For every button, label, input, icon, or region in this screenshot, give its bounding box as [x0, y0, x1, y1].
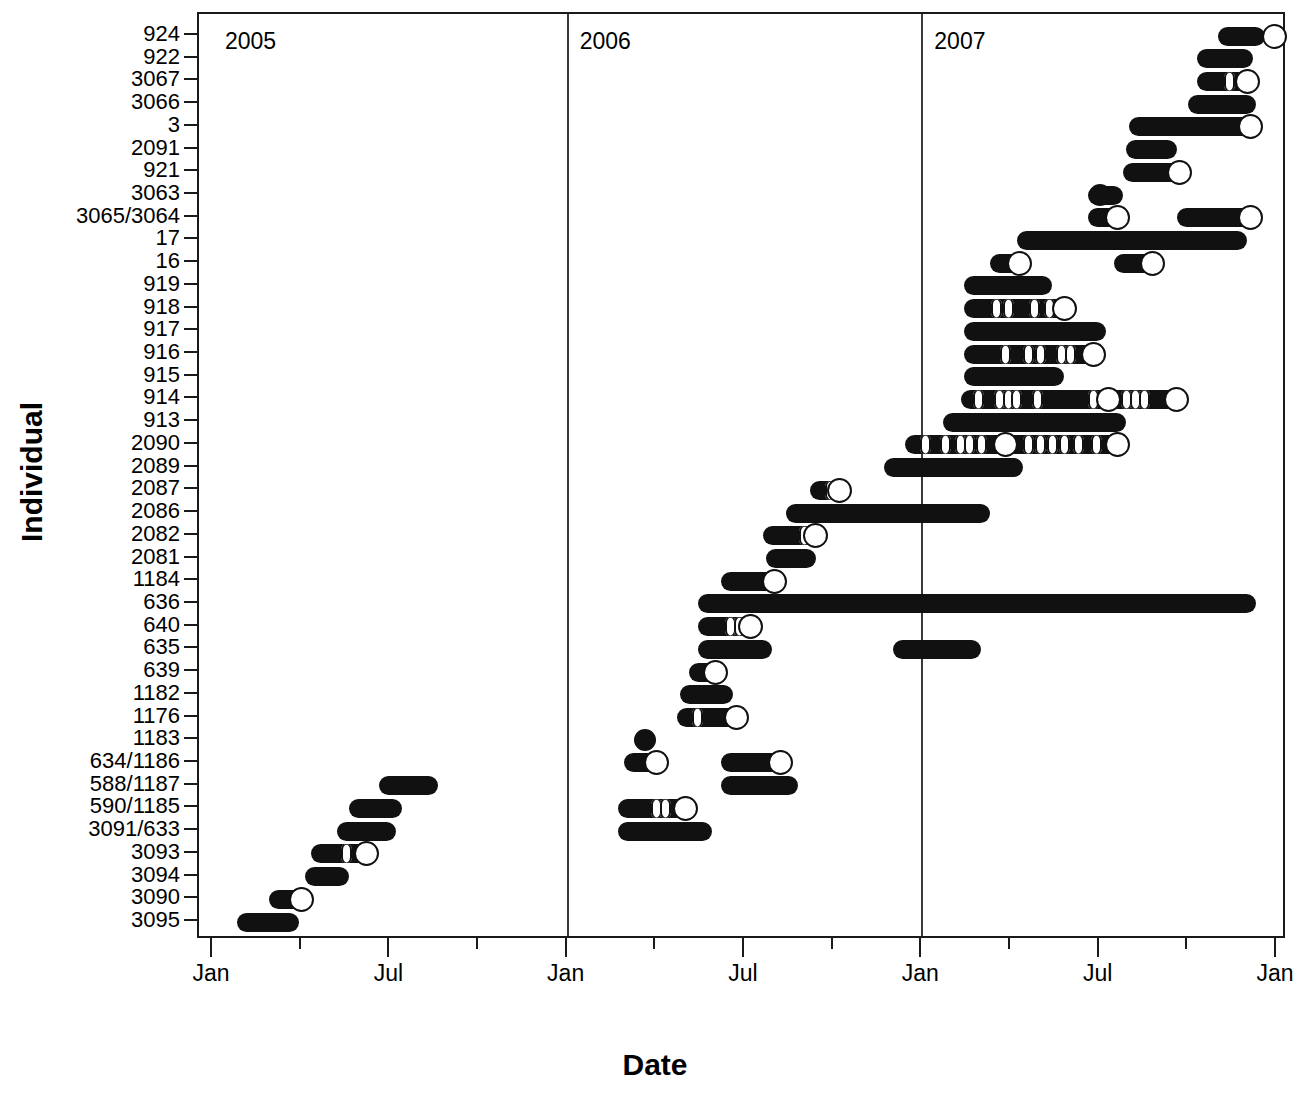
open-circle-marker — [738, 614, 763, 639]
timeline-bar — [964, 322, 1106, 341]
y-axis-tick-label: 1183 — [133, 727, 180, 749]
x-axis-minor-tick — [653, 938, 655, 949]
gap-notch-marker — [341, 844, 352, 863]
gap-notch-marker — [1035, 345, 1046, 364]
x-axis-tick-label: Jul — [374, 960, 403, 987]
gap-notch-marker — [940, 435, 951, 454]
timeline-bar — [680, 685, 733, 704]
timeline-bar — [1197, 49, 1253, 68]
y-axis-tick — [184, 578, 197, 580]
x-axis-major-tick — [210, 938, 212, 957]
x-axis-major-tick — [1097, 938, 1099, 957]
y-axis-tick — [184, 306, 197, 308]
y-axis-tick — [184, 624, 197, 626]
y-axis-tick — [184, 601, 197, 603]
open-circle-marker — [1096, 387, 1121, 412]
y-axis-tick — [184, 192, 197, 194]
y-axis-tick — [184, 533, 197, 535]
y-axis-tick-label: 3094 — [131, 864, 180, 886]
y-axis-tick — [184, 715, 197, 717]
y-axis-tick — [184, 260, 197, 262]
open-circle-marker — [1238, 205, 1263, 230]
x-axis-minor-tick — [831, 938, 833, 949]
y-axis-tick-label: 2091 — [131, 137, 180, 159]
y-axis-tick — [184, 669, 197, 671]
y-axis-tick-label: 915 — [143, 364, 180, 386]
timeline-bar — [964, 276, 1053, 295]
timeline-bar — [698, 640, 772, 659]
gap-notch-marker — [1032, 390, 1043, 409]
gap-notch-marker — [1003, 299, 1014, 318]
gap-notch-marker — [1059, 435, 1070, 454]
timeline-bar — [943, 413, 1126, 432]
chart-figure: Individual Date 924922306730663209192130… — [0, 0, 1310, 1094]
y-axis-tick-label: 2086 — [131, 500, 180, 522]
x-axis-tick-label: Jan — [192, 960, 229, 987]
y-axis-tick-label: 3067 — [131, 68, 180, 90]
y-axis-tick — [184, 805, 197, 807]
y-axis-tick-label: 639 — [143, 659, 180, 681]
y-axis-tick-label: 588/1187 — [90, 773, 180, 795]
timeline-bar — [698, 594, 1257, 613]
gap-notch-marker — [1091, 435, 1102, 454]
timeline-bar — [379, 776, 438, 795]
y-axis-tick — [184, 737, 197, 739]
year-label-2005: 2005 — [225, 28, 276, 55]
y-axis-tick — [184, 419, 197, 421]
open-circle-marker — [644, 750, 669, 775]
y-axis-tick — [184, 510, 197, 512]
y-axis-tick-label: 3095 — [131, 909, 180, 931]
open-circle-marker — [1238, 114, 1263, 139]
y-axis-tick-label: 924 — [143, 23, 180, 45]
gap-notch-marker — [920, 435, 931, 454]
y-axis-tick — [184, 760, 197, 762]
timeline-bar — [237, 913, 299, 932]
gap-notch-marker — [1000, 345, 1011, 364]
open-circle-marker — [762, 569, 787, 594]
y-axis-tick-label: 3066 — [131, 91, 180, 113]
gap-notch-marker — [660, 799, 671, 818]
y-axis-tick-label: 921 — [143, 159, 180, 181]
open-circle-marker — [803, 523, 828, 548]
x-axis-tick-label: Jan — [1256, 960, 1293, 987]
y-axis-tick-label: 1176 — [133, 705, 180, 727]
y-axis-tick-label: 16 — [156, 250, 180, 272]
y-axis-tick — [184, 237, 197, 239]
open-circle-marker — [768, 750, 793, 775]
x-axis-minor-tick — [1008, 938, 1010, 949]
gap-notch-marker — [964, 435, 975, 454]
timeline-bar — [964, 367, 1064, 386]
y-axis-tick — [184, 374, 197, 376]
open-circle-marker — [1007, 251, 1032, 276]
y-axis-tick-label: 590/1185 — [90, 795, 180, 817]
open-circle-marker — [1081, 342, 1106, 367]
y-axis-tick-label: 1182 — [133, 682, 180, 704]
gap-notch-marker — [1065, 345, 1076, 364]
y-axis-tick — [184, 283, 197, 285]
x-axis-minor-tick — [1185, 938, 1187, 949]
y-axis-tick — [184, 101, 197, 103]
y-axis-tick-label: 3 — [168, 114, 180, 136]
y-axis-tick — [184, 487, 197, 489]
x-axis-major-tick — [742, 938, 744, 957]
open-circle-marker — [827, 478, 852, 503]
filled-dot-marker — [1089, 184, 1111, 206]
gap-notch-marker — [991, 299, 1002, 318]
timeline-bar — [786, 504, 990, 523]
open-circle-marker — [993, 432, 1018, 457]
gap-notch-marker — [1035, 435, 1046, 454]
y-axis-tick-label: 636 — [143, 591, 180, 613]
timeline-bar — [721, 776, 798, 795]
y-axis-tick — [184, 646, 197, 648]
y-axis-tick-label: 922 — [143, 46, 180, 68]
timeline-bar — [337, 822, 396, 841]
x-axis-minor-tick — [476, 938, 478, 949]
y-axis-tick — [184, 147, 197, 149]
x-axis-tick-label: Jan — [902, 960, 939, 987]
y-axis-tick — [184, 851, 197, 853]
timeline-bar — [1126, 140, 1176, 159]
y-axis-tick-label: 913 — [143, 409, 180, 431]
x-axis-major-tick — [1274, 938, 1276, 957]
y-axis-tick-label: 1184 — [133, 568, 180, 590]
open-circle-marker — [1235, 69, 1260, 94]
